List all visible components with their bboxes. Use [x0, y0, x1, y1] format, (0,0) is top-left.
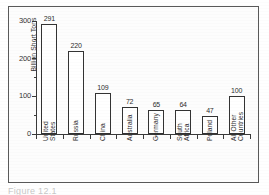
x-tick	[90, 135, 91, 139]
x-category-label: All OtherCountries	[231, 95, 240, 141]
x-tick	[143, 135, 144, 139]
x-category-label-line: States	[50, 95, 57, 141]
bar-value-label: 291	[35, 15, 63, 22]
x-tick	[197, 135, 198, 139]
x-category-label-line: Germany	[153, 95, 160, 141]
y-tick-label: 200	[9, 55, 31, 63]
x-category-label: Australia	[127, 95, 136, 141]
x-category-label-line: Africa	[184, 95, 191, 141]
x-category-label: Poland	[207, 95, 216, 141]
x-tick	[223, 135, 224, 139]
x-category-label: China	[100, 95, 109, 141]
x-category-label: UnitedStates	[43, 95, 52, 141]
chart-frame: Billion Short Tons 0100200300 2912201097…	[8, 6, 259, 183]
x-category-label-line: Russia	[73, 95, 80, 141]
x-category-label-line: Countries	[237, 95, 244, 141]
y-tick-label: 300	[9, 17, 31, 25]
x-category-label: Germany	[153, 95, 162, 141]
x-category-label: SouthAfrica	[177, 95, 186, 141]
bar-value-label: 220	[62, 42, 90, 49]
figure-caption: Figure 12.1	[8, 186, 168, 195]
x-tick	[63, 135, 64, 139]
figure-root: Billion Short Tons 0100200300 2912201097…	[0, 0, 269, 195]
plot-area	[36, 21, 250, 134]
bar-value-label: 100	[223, 87, 251, 94]
x-tick	[116, 135, 117, 139]
y-tick-label: 0	[9, 130, 31, 138]
y-tick-label: 100	[9, 92, 31, 100]
bar-value-label: 109	[89, 84, 117, 91]
x-category-label-line: China	[100, 95, 107, 141]
x-tick	[250, 135, 251, 139]
x-category-label-line: Poland	[207, 95, 214, 141]
x-category-label: Russia	[73, 95, 82, 141]
x-category-label-line: Australia	[127, 95, 134, 141]
x-tick	[170, 135, 171, 139]
x-tick	[36, 135, 37, 139]
